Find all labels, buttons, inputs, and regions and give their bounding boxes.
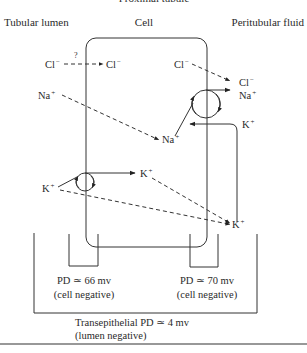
proximal-tubule-diagram: Proximal tubule Tubular lumen Cell Perit… [0, 0, 307, 353]
ion-k-cell: K+ [140, 167, 153, 179]
transepithelial-bracket [34, 233, 257, 313]
header-tubular-lumen: Tubular lumen [4, 16, 69, 28]
cl-cell-to-peritubular-arrow [192, 64, 228, 80]
ion-cl-peritubular: Cl− [239, 76, 254, 88]
pump-rotation-arrow-right [216, 94, 220, 110]
ion-cl-cell: Cl− [106, 58, 121, 70]
apical-pd-polarity: (cell negative) [54, 289, 115, 301]
pump-rotation-arrow-left [192, 98, 196, 114]
transepithelial-pd-polarity: (lumen negative) [75, 330, 147, 342]
na-k-atpase-pump [192, 90, 220, 118]
basolateral-pd-value: PD ≃ 70 mv [180, 275, 235, 286]
basolateral-pd-polarity: (cell negative) [177, 289, 238, 301]
ion-cl-cell-basolateral: Cl− [174, 58, 189, 70]
ion-k-lumen: K+ [42, 182, 55, 194]
cell-membrane [86, 38, 207, 247]
k-lumen-to-pump-line [58, 177, 77, 187]
na-cell-to-pump-line [175, 103, 193, 136]
diagram-title: Proximal tubule [119, 0, 190, 4]
ion-k-peritubular-bottom: K+ [232, 218, 245, 230]
apical-pd-value: PD ≃ 66 mv [57, 275, 112, 286]
basolateral-electrode [190, 234, 218, 267]
ion-k-peritubular-top: K+ [242, 118, 255, 130]
k-cell-to-peritubular-leak [152, 178, 228, 222]
header-cell: Cell [135, 16, 153, 28]
na-lumen-to-cell-arrow [62, 95, 157, 139]
k-peritubular-to-pump-arrow [190, 124, 237, 222]
header-peritubular-fluid: Peritubular fluid [232, 16, 305, 28]
ion-na-lumen: Na+ [38, 89, 55, 101]
ion-cl-lumen: Cl− [45, 58, 60, 70]
ion-na-cell: Na+ [162, 133, 179, 145]
apical-electrode [69, 234, 98, 266]
transepithelial-pd-value: Transepithelial PD ≃ 4 mv [75, 317, 190, 328]
ion-na-peritubular: Na+ [239, 89, 256, 101]
unknown-mechanism-question-mark: ? [74, 51, 78, 60]
